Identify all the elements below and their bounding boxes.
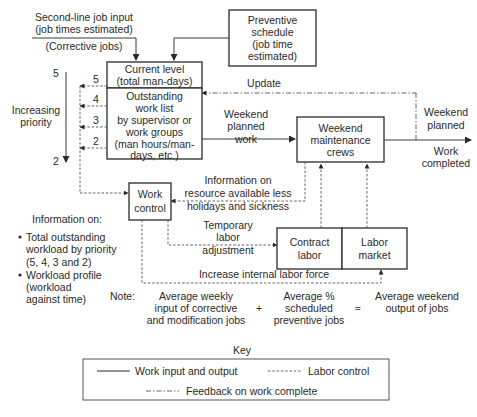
work-control-box: Work control <box>129 183 171 220</box>
corrective-jobs-label: (Corrective jobs) <box>45 40 122 52</box>
current-level-box: Current level (total man-days) <box>107 62 202 88</box>
svg-text:against time): against time) <box>26 293 86 305</box>
svg-text:Total outstanding: Total outstanding <box>26 231 106 243</box>
svg-text:Average weekend: Average weekend <box>375 290 459 302</box>
svg-text:planned: planned <box>227 120 265 132</box>
svg-text:Key: Key <box>233 344 252 356</box>
svg-text:Average %: Average % <box>283 290 334 302</box>
svg-text:Information on:: Information on: <box>32 213 102 225</box>
svg-text:Note:: Note: <box>110 290 135 302</box>
information-panel: Information on: Total outstanding worklo… <box>18 213 117 305</box>
legend: Key Work input and output Labor control … <box>83 344 389 400</box>
svg-text:≈: ≈ <box>355 302 361 314</box>
svg-text:Workload profile: Workload profile <box>26 269 102 281</box>
svg-text:Work: Work <box>138 188 163 200</box>
note-equation: Note: Average weekly input of corrective… <box>110 290 459 326</box>
work-completed-label: Work completed <box>422 145 471 169</box>
priority-axis: 5 2 Increasing priority <box>12 67 66 167</box>
svg-text:labor: labor <box>298 249 322 261</box>
svg-text:scheduled: scheduled <box>285 302 333 314</box>
svg-text:Labor control: Labor control <box>308 365 369 377</box>
svg-text:Feedback on work complete: Feedback on work complete <box>186 385 317 397</box>
maintenance-workflow-diagram: Second-line job input (job times estimat… <box>0 0 477 417</box>
svg-text:days, etc.): days, etc.) <box>130 149 178 161</box>
svg-text:5: 5 <box>53 67 59 79</box>
svg-text:priority: priority <box>20 116 52 128</box>
svg-text:(workload: (workload <box>26 281 72 293</box>
svg-text:Weekend: Weekend <box>318 122 362 134</box>
svg-text:Outstanding: Outstanding <box>126 90 183 102</box>
svg-text:Average weekly: Average weekly <box>159 290 234 302</box>
second-line-input-label: Second-line job input (job times estimat… <box>35 11 133 35</box>
svg-text:Work input and output: Work input and output <box>135 365 238 377</box>
contract-labor-box: Contract labor <box>277 228 342 269</box>
svg-text:work list: work list <box>135 102 174 114</box>
svg-text:output of jobs: output of jobs <box>385 302 448 314</box>
svg-text:Work: Work <box>434 145 459 157</box>
update-label: Update <box>247 77 281 89</box>
svg-text:control: control <box>134 202 166 214</box>
svg-text:estimated): estimated) <box>248 50 297 62</box>
svg-text:(5, 4, 3 and 2): (5, 4, 3 and 2) <box>26 256 91 268</box>
svg-text:adjustment: adjustment <box>202 244 253 256</box>
resource-info-label: Information on resource available less h… <box>185 174 292 212</box>
svg-text:Current level: Current level <box>125 63 185 75</box>
svg-text:completed: completed <box>422 157 471 169</box>
temporary-labor-label: Temporary labor adjustment <box>202 219 253 256</box>
outstanding-work-list-box: Outstanding work list by supervisor or w… <box>107 88 202 161</box>
svg-text:Weekend: Weekend <box>424 106 468 118</box>
preventive-schedule-box: Preventive schedule (job time estimated) <box>229 10 316 66</box>
svg-text:planned: planned <box>427 119 465 131</box>
svg-text:Temporary: Temporary <box>203 219 253 231</box>
preventive-input-arrow <box>174 38 229 60</box>
svg-text:input of corrective: input of corrective <box>155 302 238 314</box>
svg-text:and modification jobs: and modification jobs <box>147 314 246 326</box>
svg-text:+: + <box>256 302 262 314</box>
svg-text:crews: crews <box>327 146 354 158</box>
svg-text:labor: labor <box>216 231 240 243</box>
svg-text:2: 2 <box>53 155 59 167</box>
svg-text:work groups: work groups <box>125 126 183 138</box>
labor-market-box: Labor market <box>342 228 407 269</box>
svg-text:Preventive: Preventive <box>248 14 298 26</box>
svg-text:2: 2 <box>93 135 99 147</box>
svg-text:by supervisor or: by supervisor or <box>117 114 192 126</box>
weekend-maintenance-crews-box: Weekend maintenance crews <box>297 117 384 162</box>
svg-text:Increasing: Increasing <box>12 104 61 116</box>
svg-text:Second-line job input: Second-line job input <box>35 11 133 23</box>
svg-text:Weekend: Weekend <box>224 108 268 120</box>
svg-text:5: 5 <box>93 73 99 85</box>
svg-text:workload by priority: workload by priority <box>25 243 117 255</box>
increase-internal-label: Increase internal labor force <box>199 268 329 280</box>
svg-text:(total man-days): (total man-days) <box>117 75 193 87</box>
svg-text:schedule: schedule <box>251 26 293 38</box>
weekend-planned-label: Weekend planned <box>424 106 468 131</box>
svg-text:(job time: (job time <box>252 38 292 50</box>
svg-text:preventive jobs: preventive jobs <box>274 314 345 326</box>
svg-text:Labor: Labor <box>361 236 388 248</box>
svg-text:(job times estimated): (job times estimated) <box>35 23 132 35</box>
svg-text:work: work <box>234 133 258 145</box>
svg-text:3: 3 <box>93 114 99 126</box>
svg-text:market: market <box>358 249 390 261</box>
svg-text:4: 4 <box>93 93 99 105</box>
svg-text:Information on: Information on <box>204 174 271 186</box>
svg-text:Contract: Contract <box>290 236 330 248</box>
update-feedback-line <box>202 93 416 94</box>
svg-text:holidays and sickness: holidays and sickness <box>187 200 289 212</box>
svg-text:resource available less: resource available less <box>185 187 292 199</box>
svg-text:maintenance: maintenance <box>310 134 370 146</box>
